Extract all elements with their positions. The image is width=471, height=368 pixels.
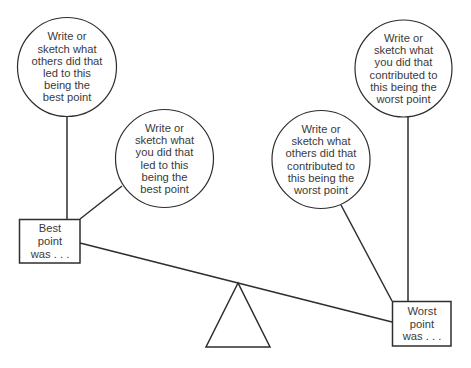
- text-others-best: Write or sketch what others did that led…: [17, 17, 117, 117]
- text-others-worst: Write or sketch what others did that con…: [272, 110, 370, 209]
- text-you-best: Write or sketch what you did that led to…: [115, 109, 214, 208]
- best-point-label: Best point was . . .: [20, 220, 80, 263]
- fulcrum-triangle: [206, 283, 270, 347]
- connector-you-best: [80, 186, 122, 219]
- balance-beam: [80, 243, 392, 322]
- worst-point-label: Worst point was . . .: [393, 302, 451, 346]
- text-you-worst: Write or sketch what you did that contri…: [355, 20, 452, 117]
- connector-others-worst: [341, 205, 392, 301]
